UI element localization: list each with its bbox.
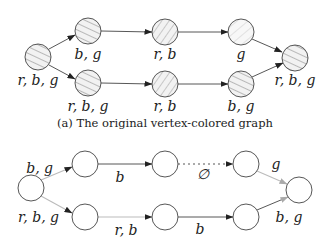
- node-a-sink: [282, 45, 308, 71]
- node-b-source: [18, 175, 44, 201]
- node-label: g: [237, 46, 246, 62]
- node-label: b, g: [75, 46, 102, 62]
- node-label: r, b: [153, 98, 176, 114]
- node-a-bottom-2: [152, 71, 178, 97]
- node-label: r, b: [153, 46, 176, 62]
- node-b-bottom-2: [152, 204, 178, 230]
- edge-label: b, g: [26, 160, 53, 176]
- node-b-sink: [286, 177, 312, 203]
- node-a-source: [25, 44, 51, 70]
- node-a-bottom-3: [228, 71, 254, 97]
- edge-b-t3-e: [257, 171, 287, 184]
- graph-b: b, g r, b, g b ∅ g r, b b b, g: [18, 151, 312, 238]
- edge-label: r, b, g: [18, 209, 59, 225]
- edge-label: g: [272, 156, 281, 172]
- graph-a: r, b, g b, g r, b g r, b, g r, b b, g r,…: [18, 18, 316, 130]
- caption-a: (a) The original vertex-colored graph: [57, 116, 274, 130]
- node-a-bottom-1: [75, 70, 101, 96]
- node-b-top-1: [72, 151, 98, 177]
- node-b-bottom-3: [233, 204, 259, 230]
- edge-a-t3-e: [252, 39, 282, 52]
- node-label: r, b, g: [68, 98, 109, 114]
- node-b-bottom-1: [72, 204, 98, 230]
- node-a-top-2: [152, 19, 178, 45]
- node-a-top-1: [75, 18, 101, 44]
- node-label: b, g: [228, 98, 255, 114]
- node-label: r, b, g: [275, 72, 316, 88]
- node-b-top-3: [233, 151, 259, 177]
- edge-label: ∅: [197, 166, 210, 182]
- edge-label: b: [116, 169, 125, 185]
- edge-a-s-t1: [49, 35, 75, 49]
- node-label: r, b, g: [18, 72, 59, 88]
- edge-label: b, g: [276, 209, 303, 225]
- node-b-top-2: [152, 151, 178, 177]
- edge-label: b: [196, 221, 205, 237]
- edge-label: r, b: [114, 222, 137, 238]
- node-a-top-3: [228, 19, 254, 45]
- edge-a-t1-t2: [101, 31, 152, 32]
- diagram-canvas: r, b, g b, g r, b g r, b, g r, b b, g r,…: [0, 0, 330, 238]
- edge-a-b1-b2: [101, 83, 152, 84]
